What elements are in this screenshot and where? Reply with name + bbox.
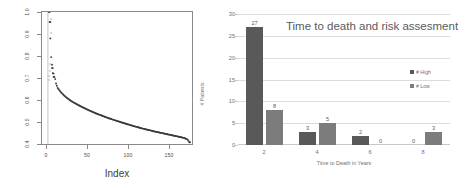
left-xtick-mark-50 bbox=[87, 145, 88, 149]
left-inner-mark-4: o bbox=[49, 69, 51, 73]
bar-low-8[interactable]: 3 bbox=[425, 132, 442, 145]
left-xtick-label-100: 100 bbox=[119, 152, 137, 158]
left-scatter-panel: o o o o o o 1.0 0.9 0.8 0.7 0.6 0.5 0.4 … bbox=[0, 0, 210, 188]
bar-low-2[interactable]: 8 bbox=[266, 110, 283, 145]
right-ytick-mark-0 bbox=[235, 145, 238, 146]
left-ytick-mark-3 bbox=[37, 78, 41, 79]
bar-label-low-4: 5 bbox=[319, 116, 336, 122]
left-ytick-label-0.5: 0.5 bbox=[24, 113, 30, 131]
left-ytick-label-0.7: 0.7 bbox=[24, 69, 30, 87]
legend-swatch-low bbox=[410, 84, 414, 88]
left-ytick-label-0.6: 0.6 bbox=[24, 91, 30, 109]
left-ytick-mark-4 bbox=[37, 100, 41, 101]
left-xtick-label-150: 150 bbox=[160, 152, 178, 158]
bar-high-6[interactable]: 2 bbox=[352, 136, 369, 145]
left-ytick-mark-5 bbox=[37, 122, 41, 123]
left-xtick-mark-0 bbox=[46, 145, 47, 149]
legend-item-low[interactable]: # Low bbox=[410, 83, 431, 89]
right-bar-panel: # Patients 30 25 20 15 10 5 0 bbox=[196, 0, 468, 188]
left-ytick-label-0.9: 0.9 bbox=[24, 25, 30, 43]
legend-item-high[interactable]: # High bbox=[410, 69, 431, 75]
left-ytick-mark-2 bbox=[37, 56, 41, 57]
legend-label-high: # High bbox=[416, 69, 431, 75]
left-ytick-label-1.0: 1.0 bbox=[24, 3, 30, 21]
left-xaxis-title: Index bbox=[41, 168, 193, 179]
bar-label-low-2: 8 bbox=[266, 103, 283, 109]
right-yaxis-title: # Patients bbox=[199, 82, 205, 105]
bar-label-high-6: 2 bbox=[352, 129, 369, 135]
bar-label-low-6: 0 bbox=[372, 138, 389, 144]
legend-swatch-high bbox=[410, 70, 414, 74]
right-xtick-label-6: 6 bbox=[368, 149, 371, 155]
left-ytick-mark-1 bbox=[37, 34, 41, 35]
bar-label-high-2: 27 bbox=[246, 20, 263, 26]
bar-group-2: 27 8 bbox=[238, 14, 291, 145]
bar-label-high-4: 3 bbox=[299, 125, 316, 131]
left-inner-mark-2: o bbox=[50, 31, 52, 35]
left-xtick-mark-150 bbox=[169, 145, 170, 149]
right-chart-title: Time to death and risk assesment bbox=[282, 20, 462, 32]
left-scatter-points bbox=[42, 12, 192, 144]
bar-high-4[interactable]: 3 bbox=[299, 132, 316, 145]
figure-canvas: o o o o o o 1.0 0.9 0.8 0.7 0.6 0.5 0.4 … bbox=[0, 0, 468, 188]
left-plot-area: o o o o o o bbox=[41, 11, 193, 145]
left-inner-mark-6: o bbox=[48, 78, 50, 82]
bar-label-low-8: 3 bbox=[425, 125, 442, 131]
bar-high-2[interactable]: 27 bbox=[246, 27, 263, 145]
left-ytick-mark-0 bbox=[37, 12, 41, 13]
right-xtick-label-8: 8 bbox=[421, 149, 424, 155]
left-inner-mark-1: o bbox=[50, 17, 52, 21]
left-xtick-mark-100 bbox=[128, 145, 129, 149]
legend-label-low: # Low bbox=[416, 83, 430, 89]
right-xaxis-title: Time to Death in Years bbox=[238, 160, 450, 166]
right-xtick-label-2: 2 bbox=[262, 149, 265, 155]
left-xtick-label-50: 50 bbox=[78, 152, 96, 158]
bar-label-high-8: 0 bbox=[405, 138, 422, 144]
bar-low-4[interactable]: 5 bbox=[319, 123, 336, 145]
right-plot-area: 30 25 20 15 10 5 0 27 bbox=[238, 14, 450, 145]
bar-group-4: 3 5 bbox=[291, 14, 344, 145]
bar-group-6: 2 0 bbox=[344, 14, 397, 145]
right-xtick-label-4: 4 bbox=[315, 149, 318, 155]
left-ytick-mark-6 bbox=[37, 144, 41, 145]
left-inner-mark-3: o bbox=[49, 62, 51, 66]
right-legend: # High # Low bbox=[410, 69, 431, 97]
left-ytick-label-0.8: 0.8 bbox=[24, 47, 30, 65]
left-xtick-label-0: 0 bbox=[37, 152, 55, 158]
left-ytick-label-0.4: 0.4 bbox=[24, 135, 30, 153]
